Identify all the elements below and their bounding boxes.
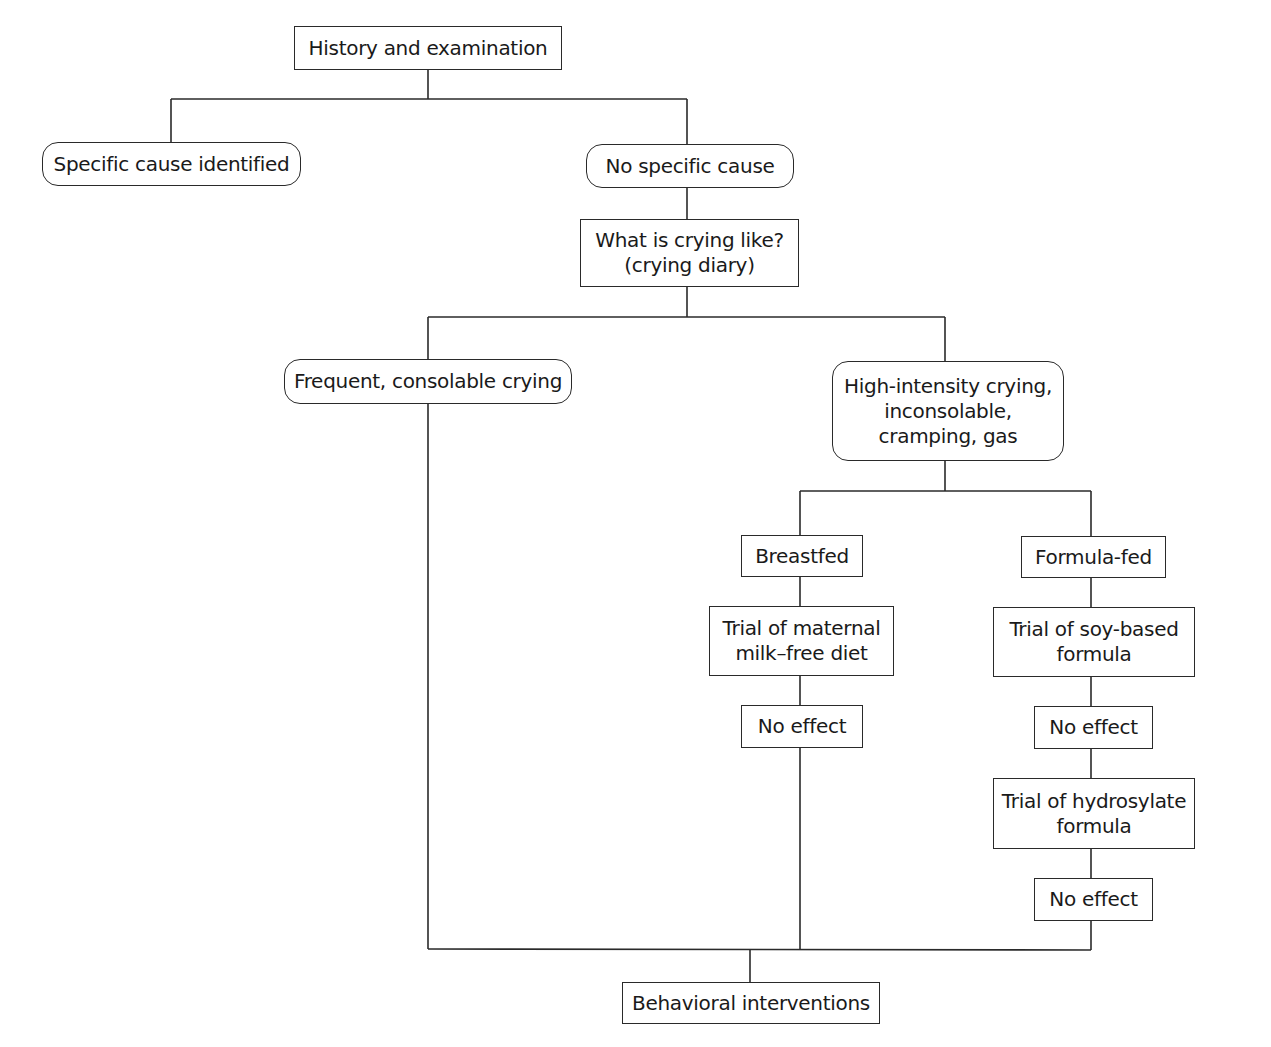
node-trial-hydrosylate-formula: Trial of hydrosylate formula bbox=[993, 778, 1195, 849]
node-no-specific-cause: No specific cause bbox=[586, 144, 794, 188]
node-no-effect-hydrosylate: No effect bbox=[1034, 878, 1153, 921]
node-trial-soy-based-formula: Trial of soy-based formula bbox=[993, 607, 1195, 677]
node-breastfed: Breastfed bbox=[741, 535, 863, 577]
node-no-effect-soy: No effect bbox=[1034, 706, 1153, 749]
node-history-and-examination: History and examination bbox=[294, 26, 562, 70]
node-no-effect-breastfed: No effect bbox=[741, 705, 863, 748]
node-frequent-consolable-crying: Frequent, consolable crying bbox=[284, 359, 572, 404]
node-specific-cause-identified: Specific cause identified bbox=[42, 142, 301, 186]
node-what-is-crying-like: What is crying like? (crying diary) bbox=[580, 219, 799, 287]
crying-infant-flowchart: History and examination Specific cause i… bbox=[0, 0, 1271, 1047]
node-trial-maternal-milk-free-diet: Trial of maternal milk–free diet bbox=[709, 606, 894, 676]
node-high-intensity-crying: High-intensity crying, inconsolable, cra… bbox=[832, 361, 1064, 461]
node-formula-fed: Formula-fed bbox=[1021, 536, 1166, 578]
node-behavioral-interventions: Behavioral interventions bbox=[622, 982, 880, 1024]
